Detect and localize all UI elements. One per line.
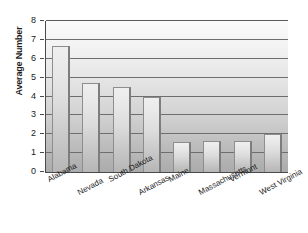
x-axis-category-labels: AlabamaNevadaSouth DakotaArkansasMaineMa… [0, 0, 308, 233]
x-category-label: South Dakota [107, 153, 154, 184]
bar-chart: Average Number 876543210 AlabamaNevadaSo… [0, 0, 308, 233]
x-category-label: Arkansas [137, 173, 171, 197]
x-category-label: Alabama [46, 161, 78, 184]
x-category-label: West Virginia [258, 167, 304, 197]
x-category-label: Nevada [76, 176, 105, 197]
x-category-label: Maine [167, 166, 190, 184]
